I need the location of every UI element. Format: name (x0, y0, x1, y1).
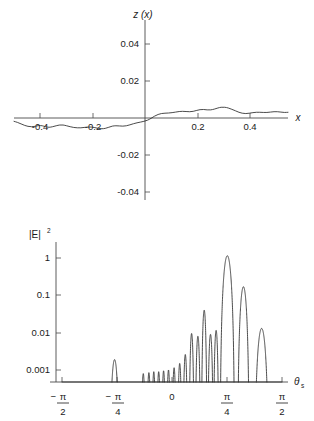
xtick2-num: 0 (169, 391, 174, 402)
ytick-label-top-3: -0.04 (117, 186, 139, 197)
ytick-label-top-0: 0.04 (121, 38, 140, 49)
x-axis-title-bottom-base: θ (294, 376, 300, 387)
y-axis-title-bottom: |E| 2 (29, 227, 51, 240)
y-axis-title-bottom-exponent: 2 (47, 227, 51, 234)
ytick-label-bottom-0: 1 (45, 252, 50, 263)
ytick-label-bottom-2: 0.01 (32, 327, 51, 338)
two-panel-figure: 0.04 0.02 -0.02 -0.04 -0.4 -0.2 0.2 0.4 … (0, 0, 314, 421)
ytick-label-top-2: -0.02 (117, 149, 139, 160)
xtick1-den: 4 (115, 406, 120, 417)
ytick-label-bottom-3: 0.001 (26, 364, 50, 375)
chart-scattered-intensity: 1 0.1 0.01 0.001 − π 2 − π (0, 210, 314, 421)
xtick0-num: π (60, 391, 67, 402)
x-ticks-bottom (62, 377, 282, 382)
surface-profile-svg: 0.04 0.02 -0.02 -0.04 -0.4 -0.2 0.2 0.4 … (0, 0, 314, 210)
xtick0-den: 2 (60, 406, 65, 417)
xtick4-den: 2 (279, 406, 284, 417)
xtick-label-bottom-1: − π 4 (105, 391, 124, 417)
xtick1-num: π (115, 391, 122, 402)
xtick1-sign: − (105, 391, 111, 402)
xtick3-num: π (224, 391, 231, 402)
y-axis-title-top: z (x) (132, 9, 152, 20)
x-axis-title-bottom-subscript: s (301, 382, 305, 389)
x-axis-title-bottom: θ s (294, 376, 305, 389)
xtick0-sign: − (50, 391, 56, 402)
xtick-label-bottom-3: π 4 (221, 391, 233, 417)
xtick-label-bottom-4: π 2 (276, 391, 288, 417)
ytick-label-bottom-1: 0.1 (37, 289, 50, 300)
x-axis-title-top: x (295, 112, 302, 123)
scattered-intensity-svg: 1 0.1 0.01 0.001 − π 2 − π (0, 210, 314, 421)
xtick-label-top-1: -0.2 (85, 121, 101, 132)
xtick-label-top-3: 0.4 (243, 121, 256, 132)
ytick-label-top-1: 0.02 (121, 75, 140, 86)
y-ticks-bottom (56, 258, 61, 370)
xtick-label-bottom-0: − π 2 (50, 391, 69, 417)
chart-surface-profile: 0.04 0.02 -0.02 -0.04 -0.4 -0.2 0.2 0.4 … (0, 0, 314, 210)
xtick4-num: π (279, 391, 286, 402)
xtick-label-bottom-2: 0 (169, 391, 174, 402)
xtick3-den: 4 (224, 406, 229, 417)
y-axis-title-bottom-base: |E| (29, 229, 41, 240)
xtick-label-top-2: 0.2 (191, 121, 204, 132)
scattered-intensity-curve (62, 256, 282, 382)
